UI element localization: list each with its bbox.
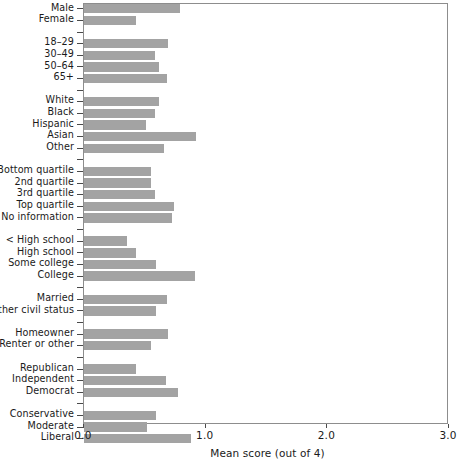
bar bbox=[84, 120, 146, 129]
bar bbox=[84, 260, 156, 269]
y-axis-tick bbox=[77, 136, 83, 137]
bar bbox=[84, 39, 168, 48]
bar bbox=[84, 329, 168, 338]
y-axis-tick bbox=[77, 148, 83, 149]
bar bbox=[84, 248, 136, 257]
category-label: Female bbox=[39, 13, 74, 25]
category-label: College bbox=[38, 269, 75, 281]
bar-row: Renter or other bbox=[0, 340, 454, 352]
x-axis-tick-label: 2.0 bbox=[318, 429, 335, 441]
y-axis-tick bbox=[77, 20, 83, 21]
y-axis-tick bbox=[77, 299, 83, 300]
bar-row: Other bbox=[0, 142, 454, 154]
category-label: Independent bbox=[12, 373, 74, 385]
bar bbox=[84, 167, 151, 176]
bar bbox=[84, 4, 180, 13]
category-label: High school bbox=[17, 246, 74, 258]
x-axis-tick-label: 3.0 bbox=[439, 429, 456, 441]
y-axis-tick bbox=[77, 171, 83, 172]
category-label: Some college bbox=[8, 257, 74, 269]
bar bbox=[84, 295, 167, 304]
category-label: Other bbox=[46, 141, 74, 153]
category-label: White bbox=[46, 94, 74, 106]
category-label: Asian bbox=[47, 129, 74, 141]
y-axis-tick bbox=[77, 124, 83, 125]
y-axis-tick bbox=[77, 252, 83, 253]
x-axis-tick-label: 0.0 bbox=[74, 429, 91, 441]
y-axis-tick bbox=[77, 229, 83, 230]
y-axis-tick bbox=[77, 66, 83, 67]
bar bbox=[84, 190, 155, 199]
bar bbox=[84, 132, 196, 141]
x-axis: Mean score (out of 4) 0.01.02.03.0 bbox=[0, 424, 454, 464]
x-axis-tick bbox=[83, 424, 84, 428]
bar bbox=[84, 97, 159, 106]
y-axis-tick bbox=[77, 206, 83, 207]
bar bbox=[84, 388, 178, 397]
y-axis-tick bbox=[77, 8, 83, 9]
bar bbox=[84, 16, 136, 25]
bar bbox=[84, 271, 195, 280]
bar-row: Democrat bbox=[0, 386, 454, 398]
category-label: 3rd quartile bbox=[17, 187, 74, 199]
y-axis-tick bbox=[77, 183, 83, 184]
y-axis-tick bbox=[77, 380, 83, 381]
y-axis-tick bbox=[77, 415, 83, 416]
bar bbox=[84, 341, 151, 350]
y-axis-tick bbox=[77, 194, 83, 195]
y-axis-tick bbox=[77, 369, 83, 370]
y-axis-tick bbox=[77, 90, 83, 91]
y-axis-tick bbox=[77, 392, 83, 393]
category-label: Republican bbox=[20, 362, 74, 374]
category-label: Male bbox=[51, 2, 74, 14]
y-axis-tick bbox=[77, 310, 83, 311]
bar-row: College bbox=[0, 270, 454, 282]
bar-row: 65+ bbox=[0, 73, 454, 85]
bar-rows-container: MaleFemale18–2930–4950–6465+WhiteBlackHi… bbox=[0, 3, 454, 424]
category-label: 65+ bbox=[53, 71, 74, 83]
bar bbox=[84, 376, 166, 385]
category-label: Hispanic bbox=[32, 118, 74, 130]
y-axis-tick bbox=[77, 334, 83, 335]
x-axis-tick-label: 1.0 bbox=[196, 429, 213, 441]
bar bbox=[84, 202, 174, 211]
category-label: No information bbox=[1, 211, 74, 223]
x-axis-tick bbox=[448, 424, 449, 428]
y-axis-tick bbox=[77, 287, 83, 288]
y-axis-tick bbox=[77, 55, 83, 56]
category-label: Democrat bbox=[26, 385, 74, 397]
bar bbox=[84, 411, 156, 420]
category-label: Renter or other bbox=[0, 338, 74, 350]
bar bbox=[84, 74, 167, 83]
y-axis-tick bbox=[77, 113, 83, 114]
bar bbox=[84, 213, 172, 222]
bar bbox=[84, 62, 159, 71]
y-axis-tick bbox=[77, 345, 83, 346]
y-axis-tick bbox=[77, 159, 83, 160]
category-label: 30–49 bbox=[44, 48, 74, 60]
y-axis-tick bbox=[77, 241, 83, 242]
category-label: 50–64 bbox=[44, 60, 74, 72]
y-axis-tick bbox=[77, 32, 83, 33]
y-axis-tick bbox=[77, 322, 83, 323]
bar-row: Other civil status bbox=[0, 305, 454, 317]
bar bbox=[84, 306, 156, 315]
category-label: Other civil status bbox=[0, 304, 74, 316]
bar bbox=[84, 236, 127, 245]
category-label: Married bbox=[37, 292, 74, 304]
bar bbox=[84, 51, 155, 60]
bar bbox=[84, 364, 136, 373]
y-axis-tick bbox=[77, 43, 83, 44]
category-label: 18–29 bbox=[44, 36, 74, 48]
category-label: 2nd quartile bbox=[14, 176, 74, 188]
category-label: Bottom quartile bbox=[0, 164, 74, 176]
x-axis-tick bbox=[205, 424, 206, 428]
category-label: Homeowner bbox=[15, 327, 74, 339]
bar bbox=[84, 144, 164, 153]
bar bbox=[84, 109, 155, 118]
bar bbox=[84, 178, 151, 187]
y-axis-tick bbox=[77, 264, 83, 265]
y-axis-tick bbox=[77, 276, 83, 277]
y-axis-tick bbox=[77, 217, 83, 218]
